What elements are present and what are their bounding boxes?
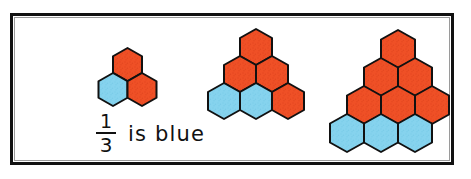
- hexagon-group-2: [192, 27, 320, 121]
- hexagon-group-1-shapes: [84, 46, 171, 108]
- hexagon-blue: [208, 83, 240, 119]
- hexagon-blue: [364, 114, 398, 152]
- hexagon-orange: [128, 73, 157, 106]
- caption: 1 3 is blue: [96, 112, 205, 155]
- figure-canvas: 1 3 is blue: [0, 0, 471, 179]
- hexagon-group-2-shapes: [192, 27, 320, 121]
- caption-words: is blue: [128, 122, 205, 146]
- fraction-denominator: 3: [97, 134, 116, 155]
- hexagon-group-1: [84, 46, 171, 108]
- hexagon-group-3-shapes: [330, 28, 466, 154]
- hexagon-blue: [99, 73, 128, 106]
- hexagon-group-3: [330, 28, 466, 154]
- fraction-numerator: 1: [97, 112, 115, 132]
- hexagon-blue: [330, 114, 364, 152]
- hexagon-orange: [272, 83, 304, 119]
- hexagon-blue: [398, 114, 432, 152]
- hexagon-blue: [240, 83, 272, 119]
- fraction-one-third: 1 3: [96, 112, 116, 155]
